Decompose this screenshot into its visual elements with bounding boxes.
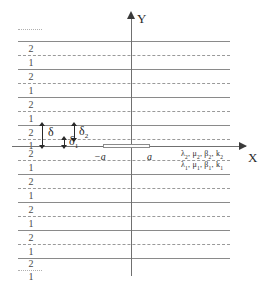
interface-line-solid-16 bbox=[18, 258, 230, 259]
material-param-layer2-subscript-2: 2 bbox=[209, 154, 212, 160]
layer-index-label-4: 2 bbox=[26, 100, 36, 110]
layer-index-label-15: 1 bbox=[26, 247, 36, 257]
interface-line-solid-10 bbox=[18, 174, 230, 175]
layer-index-label-16: 2 bbox=[26, 259, 36, 269]
crack-left-coordinate-label: −a bbox=[94, 152, 106, 162]
material-param-layer2-subscript-3: 2 bbox=[220, 154, 223, 160]
layer-index-label-12: 2 bbox=[26, 205, 36, 215]
layer-index-label-5: 1 bbox=[26, 114, 36, 124]
delta1-dimension-arrow-bottom bbox=[61, 145, 67, 149]
crack-rectangle bbox=[103, 144, 150, 148]
interface-line-solid-1 bbox=[18, 41, 230, 42]
interface-line-dashed-15 bbox=[18, 244, 230, 245]
material-param-layer1-subscript-1: 1 bbox=[197, 165, 200, 171]
interface-line-solid-3 bbox=[18, 69, 230, 70]
interface-line-dashed-6 bbox=[18, 111, 230, 112]
material-param-layer2-subscript-0: 2 bbox=[185, 154, 188, 160]
layer-index-label-3: 1 bbox=[26, 86, 36, 96]
delta2-subscript: 2 bbox=[85, 132, 89, 140]
interface-line-solid-12 bbox=[18, 202, 230, 203]
delta-symbol: δ bbox=[48, 125, 54, 139]
layer-index-label-9: 1 bbox=[26, 163, 36, 173]
layer-index-label-0: 2 bbox=[26, 44, 36, 54]
x-axis-label: X bbox=[248, 151, 257, 164]
y-axis-label: Y bbox=[137, 12, 146, 25]
layer-index-label-13: 1 bbox=[26, 219, 36, 229]
delta-dimension-line bbox=[42, 125, 43, 146]
layer-index-label-17: 1 bbox=[26, 272, 36, 282]
interface-line-solid-14 bbox=[18, 230, 230, 231]
interface-line-dashed-11 bbox=[18, 188, 230, 189]
layer-index-label-6: 2 bbox=[26, 128, 36, 138]
delta1-dimension-arrow-top bbox=[61, 136, 67, 140]
material-param-layer1-subscript-0: 1 bbox=[185, 165, 188, 171]
material-parameters-layer-2: λ2, μ2, β2, k2 bbox=[181, 150, 223, 160]
delta2-dimension-arrow-top bbox=[71, 122, 77, 126]
interface-line-dotted-0 bbox=[18, 29, 42, 30]
delta1-label: δ1 bbox=[69, 135, 78, 150]
layer-index-label-2: 2 bbox=[26, 72, 36, 82]
delta-dimension-arrow-bottom bbox=[39, 145, 45, 149]
y-axis-arrowhead bbox=[127, 11, 135, 19]
layer-index-label-14: 2 bbox=[26, 233, 36, 243]
delta2-label: δ2 bbox=[79, 125, 88, 140]
delta-label: δ bbox=[48, 126, 54, 138]
crack-right-coordinate-label: a bbox=[147, 152, 152, 162]
x-axis-arrowhead bbox=[239, 142, 247, 150]
interface-line-solid-5 bbox=[18, 97, 230, 98]
interface-line-dashed-2 bbox=[18, 55, 230, 56]
material-param-layer1-subscript-3: 1 bbox=[220, 165, 223, 171]
delta-dimension-arrow-top bbox=[39, 122, 45, 126]
layer-index-label-10: 2 bbox=[26, 177, 36, 187]
material-param-layer1-subscript-2: 1 bbox=[209, 165, 212, 171]
interface-line-dashed-13 bbox=[18, 216, 230, 217]
delta1-subscript: 1 bbox=[75, 142, 79, 150]
material-param-layer2-subscript-1: 2 bbox=[197, 154, 200, 160]
interface-line-dashed-4 bbox=[18, 83, 230, 84]
layer-index-label-1: 1 bbox=[26, 58, 36, 68]
layer-index-label-8: 2 bbox=[26, 149, 36, 159]
figure-canvas: 212121212121212121 Y X −a a δ δ2 δ1 λ2, … bbox=[0, 0, 272, 284]
layer-index-label-11: 1 bbox=[26, 191, 36, 201]
material-parameters-layer-1: λ1, μ1, β1, k1 bbox=[181, 161, 223, 171]
interface-line-dashed-8 bbox=[18, 139, 230, 140]
